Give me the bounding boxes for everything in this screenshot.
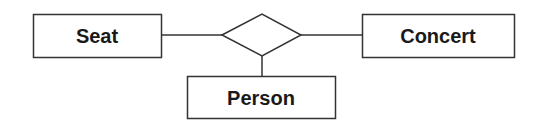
relationship-diamond xyxy=(222,14,301,56)
entity-person: Person xyxy=(188,77,336,119)
er-diagram: Seat Concert Person xyxy=(0,0,539,126)
entity-concert-label: Concert xyxy=(400,25,476,47)
entity-seat: Seat xyxy=(34,15,162,58)
entity-person-label: Person xyxy=(227,87,295,109)
entity-concert: Concert xyxy=(363,15,515,58)
entity-seat-label: Seat xyxy=(76,25,119,47)
